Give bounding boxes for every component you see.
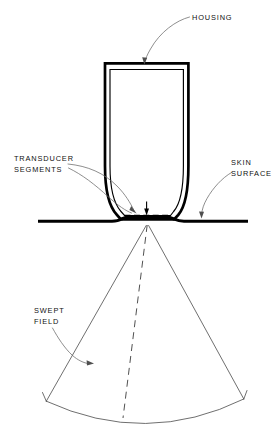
- skin-surface-leader-line: [202, 173, 232, 214]
- swept-field-group: [43, 225, 248, 424]
- transducer-leader-line-upper: [68, 164, 134, 211]
- swept-field-right-edge: [149, 226, 244, 400]
- swept-field-callout-group: SWEPT FIELD: [34, 306, 94, 366]
- housing-outer-outline: [105, 63, 188, 219]
- transducer-arrow-head: [144, 209, 149, 216]
- swept-field-callout-label: SWEPT FIELD: [34, 306, 67, 326]
- skin-callout-line-2: SURFACE: [231, 169, 272, 178]
- housing-leader-line: [145, 17, 190, 62]
- swept-field-arc: [46, 399, 244, 424]
- swept-field-left-corner: [43, 393, 47, 402]
- swept-field-center-axis: [123, 225, 147, 418]
- housing-callout-label: HOUSING: [192, 13, 232, 22]
- diagram-canvas: HOUSING TRANSDUCER SEGMENTS SKIN SURFACE: [0, 0, 273, 433]
- skin-surface-callout-group: SKIN SURFACE: [199, 158, 272, 219]
- transducer-callout-line-1: TRANSDUCER: [14, 154, 74, 163]
- ultrasound-probe-diagram: HOUSING TRANSDUCER SEGMENTS SKIN SURFACE: [0, 0, 273, 433]
- transducer-leader-line-lower: [69, 168, 132, 213]
- transducer-callout-line-2: SEGMENTS: [14, 165, 62, 174]
- transducer-segments-callout-label: TRANSDUCER SEGMENTS: [14, 154, 77, 174]
- housing-callout-group: HOUSING: [142, 13, 232, 64]
- skin-surface-leader-arrowhead: [199, 212, 204, 219]
- swept-callout-line-2: FIELD: [34, 317, 59, 326]
- swept-callout-line-1: SWEPT: [34, 306, 64, 315]
- housing-group: [105, 63, 188, 219]
- swept-field-leader-arrowhead: [87, 360, 94, 365]
- transducer-segments-callout-group: TRANSDUCER SEGMENTS: [14, 154, 137, 214]
- skin-surface-callout-label: SKIN SURFACE: [231, 158, 272, 178]
- housing-callout-line-1: HOUSING: [192, 13, 232, 22]
- skin-callout-line-1: SKIN: [231, 158, 252, 167]
- housing-inner-outline: [110, 70, 183, 216]
- swept-field-right-corner: [244, 391, 247, 400]
